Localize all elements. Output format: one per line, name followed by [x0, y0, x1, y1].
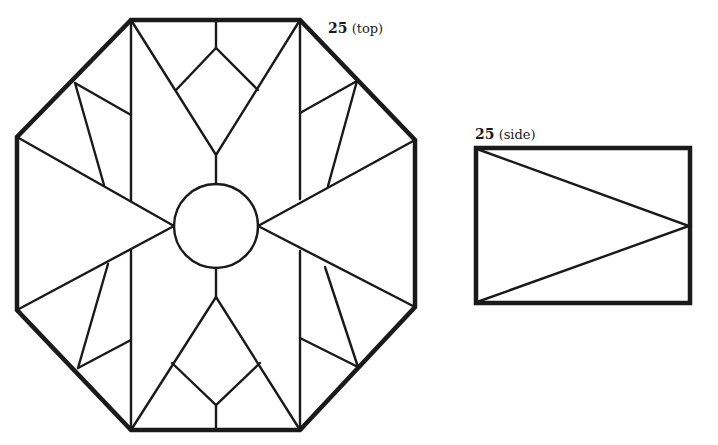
- lower-left-wing-b: [78, 264, 108, 368]
- diagonal-lower-right: [258, 226, 415, 307]
- center-circle: [174, 184, 258, 268]
- pattern-diagram: [0, 0, 718, 445]
- diagonal-upper-left: [17, 137, 174, 226]
- side-rectangle-outline: [476, 148, 690, 303]
- upper-right-wing-b: [328, 81, 357, 186]
- diagonal-lower-left: [17, 226, 174, 310]
- side-view-rectangle-pattern: [476, 148, 690, 303]
- top-diamond: [176, 48, 258, 90]
- side-triangle: [477, 149, 689, 302]
- bottom-diamond: [172, 363, 260, 405]
- top-view-octagon-pattern: [17, 20, 415, 430]
